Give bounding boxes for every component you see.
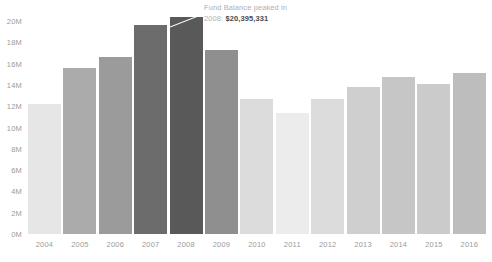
x-axis-tick: 2013 [347, 240, 380, 249]
y-axis-tick: 6M [11, 166, 22, 175]
y-axis-tick: 12M [7, 102, 22, 111]
bar-group[interactable]: 2011 [276, 0, 309, 234]
bar[interactable] [347, 87, 380, 234]
bar[interactable] [205, 50, 238, 234]
x-axis-tick: 2007 [134, 240, 167, 249]
y-axis-tick: 0M [11, 230, 22, 239]
bar[interactable] [276, 113, 309, 234]
y-axis-tick: 2M [11, 208, 22, 217]
bar-group[interactable]: 2004 [28, 0, 61, 234]
x-axis-tick: 2014 [382, 240, 415, 249]
x-axis-tick: 2009 [205, 240, 238, 249]
y-axis: 20M18M16M14M12M10M8M6M4M2M0M [0, 0, 28, 240]
fund-balance-bar-chart: 20M18M16M14M12M10M8M6M4M2M0M 20042005200… [0, 0, 492, 262]
x-axis-tick: 2011 [276, 240, 309, 249]
x-axis-tick: 2008 [170, 240, 203, 249]
bar[interactable] [453, 73, 486, 234]
annotation-year-prefix: 2008: [204, 14, 225, 23]
bar[interactable] [170, 17, 203, 234]
y-axis-tick: 18M [7, 38, 22, 47]
bar-group[interactable]: 2008 [170, 0, 203, 234]
bar[interactable] [417, 84, 450, 234]
y-axis-tick: 4M [11, 187, 22, 196]
bar[interactable] [99, 57, 132, 234]
bar[interactable] [63, 68, 96, 234]
annotation-line-1: Fund Balance peaked in [204, 3, 354, 14]
x-axis-tick: 2016 [453, 240, 486, 249]
bar-group[interactable]: 2006 [99, 0, 132, 234]
annotation-line-2: 2008: $20,395,331 [204, 14, 354, 25]
bar[interactable] [28, 104, 61, 234]
bar-group[interactable]: 2016 [453, 0, 486, 234]
x-axis-tick: 2012 [311, 240, 344, 249]
bar-group[interactable]: 2010 [240, 0, 273, 234]
bar-group[interactable]: 2009 [205, 0, 238, 234]
bar[interactable] [311, 99, 344, 234]
peak-annotation: Fund Balance peaked in 2008: $20,395,331 [204, 3, 354, 24]
bar-group[interactable]: 2005 [63, 0, 96, 234]
bar-group[interactable]: 2014 [382, 0, 415, 234]
y-axis-tick: 14M [7, 80, 22, 89]
bar[interactable] [382, 77, 415, 234]
x-axis-tick: 2006 [99, 240, 132, 249]
annotation-peak-value: $20,395,331 [225, 14, 268, 23]
y-axis-tick: 10M [7, 123, 22, 132]
bar-group[interactable]: 2013 [347, 0, 380, 234]
y-axis-tick: 20M [7, 17, 22, 26]
bar-group[interactable]: 2007 [134, 0, 167, 234]
x-axis-tick: 2004 [28, 240, 61, 249]
bar[interactable] [240, 99, 273, 234]
bar-group[interactable]: 2015 [417, 0, 450, 234]
x-axis-tick: 2015 [417, 240, 450, 249]
bar-group[interactable]: 2012 [311, 0, 344, 234]
x-axis-tick: 2010 [240, 240, 273, 249]
y-axis-tick: 8M [11, 144, 22, 153]
x-axis-tick: 2005 [63, 240, 96, 249]
plot-area: 2004200520062007200820092010201120122013… [28, 0, 492, 234]
y-axis-tick: 16M [7, 59, 22, 68]
bar[interactable] [134, 25, 167, 234]
